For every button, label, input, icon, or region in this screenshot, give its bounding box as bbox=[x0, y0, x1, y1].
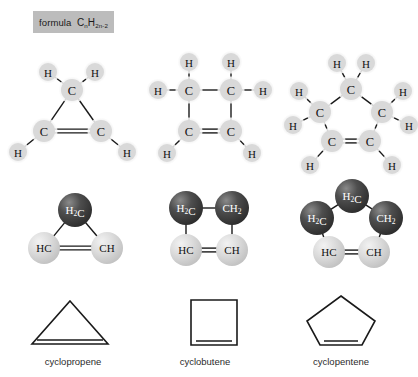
hydrogen-atom-label: H bbox=[185, 57, 193, 69]
carbon-atom-label: C bbox=[227, 84, 235, 98]
hydrogen-atom-label: H bbox=[388, 160, 396, 172]
ball-bond-0-1 bbox=[84, 221, 99, 238]
ball-model-cyclobutene: H2CCH2HCCH bbox=[169, 191, 249, 266]
hydrogen-atom-label: H bbox=[163, 148, 171, 160]
carbon-atom-label: C bbox=[378, 106, 386, 120]
ball-atom-label: CH bbox=[224, 244, 239, 256]
ball-atom-label: HC bbox=[178, 244, 193, 256]
skeletal-cyclopentene bbox=[307, 296, 375, 345]
molecule-name-cyclopropene: cyclopropene bbox=[13, 356, 133, 367]
carbon-atom-label: C bbox=[366, 135, 374, 149]
hydrogen-atom-label: H bbox=[289, 120, 297, 132]
hydrogen-atom-label: H bbox=[259, 85, 267, 97]
skeletal-ring-triangle bbox=[32, 301, 108, 344]
hydrogen-atom-label: H bbox=[14, 147, 22, 159]
hydrogen-atom-label: H bbox=[227, 57, 235, 69]
carbon-atom-label: C bbox=[328, 135, 336, 149]
hydrogen-atom-label: H bbox=[248, 148, 256, 160]
lewis-bond-0-0 bbox=[49, 98, 66, 123]
carbon-atom-label: C bbox=[40, 125, 48, 139]
carbon-atom-label: C bbox=[68, 84, 76, 98]
skeletal-cyclobutene bbox=[191, 300, 237, 345]
hydrogen-atom-label: H bbox=[362, 58, 370, 70]
molecule-name-cyclopentene: cyclopentene bbox=[281, 356, 401, 367]
lewis-structure-cyclopropene: CCCHHHH bbox=[7, 61, 139, 164]
diagram-canvas: formula CnH2n-2 CCCHHHHH2CHCCHCCCCHHHHHH… bbox=[0, 0, 418, 377]
hydrogen-atom-label: H bbox=[44, 67, 52, 79]
carbon-atom-label: C bbox=[227, 125, 235, 139]
carbon-atom-label: C bbox=[185, 84, 193, 98]
hydrogen-atom-label: H bbox=[154, 85, 162, 97]
carbon-atom-label: C bbox=[185, 125, 193, 139]
hydrogen-atom-label: H bbox=[405, 120, 413, 132]
molecule-name-cyclobutene: cyclobutene bbox=[145, 356, 265, 367]
skeletal-cyclopropene bbox=[32, 301, 108, 344]
ball-bond-0-0 bbox=[52, 221, 66, 238]
carbon-atom-label: C bbox=[347, 83, 355, 97]
ball-atom-label: HC bbox=[321, 246, 336, 258]
carbon-atom-label: C bbox=[316, 106, 324, 120]
hydrogen-atom-label: H bbox=[306, 160, 314, 172]
ball-model-cyclopropene: H2CHCCH bbox=[28, 193, 123, 264]
skeletal-ring-square bbox=[191, 300, 237, 345]
lewis-structure-cyclobutene: CCCCHHHHHH bbox=[147, 51, 275, 165]
hydrogen-atom-label: H bbox=[399, 86, 407, 98]
lewis-structure-cyclopentene: CCCCCHHHHHHHH bbox=[282, 52, 418, 177]
ball-model-cyclopentene: H2CH2CCH2HCCH bbox=[300, 179, 403, 268]
lewis-bond-0-1 bbox=[77, 98, 95, 123]
hydrogen-atom-label: H bbox=[295, 86, 303, 98]
hydrogen-atom-label: H bbox=[91, 67, 99, 79]
carbon-atom-label: C bbox=[97, 125, 105, 139]
ball-atom-label: CH bbox=[99, 242, 114, 254]
molecule-artwork: CCCHHHHH2CHCCHCCCCHHHHHHH2CCH2HCCHCCCCCH… bbox=[0, 0, 418, 377]
ball-atom-label: CH bbox=[366, 246, 381, 258]
ball-atom-label: HC bbox=[36, 242, 51, 254]
hydrogen-atom-label: H bbox=[123, 147, 131, 159]
hydrogen-atom-label: H bbox=[333, 58, 341, 70]
skeletal-ring-pentagon bbox=[307, 296, 375, 345]
